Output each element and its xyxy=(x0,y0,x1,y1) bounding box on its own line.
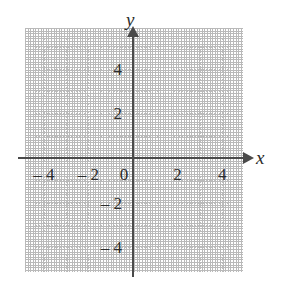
grid-line-horizontal xyxy=(25,91,243,92)
grid-line-vertical xyxy=(155,28,156,272)
grid-line-horizontal xyxy=(25,225,243,226)
y-axis-line xyxy=(132,33,134,277)
y-tick-label: 2 xyxy=(0,105,122,122)
grid-line-vertical xyxy=(200,28,201,272)
x-axis-line xyxy=(18,157,251,159)
grid-line-vertical xyxy=(222,28,223,272)
grid-line-horizontal xyxy=(25,270,243,271)
x-axis-arrowhead-icon xyxy=(243,152,254,164)
y-tick-label: – 4 xyxy=(0,239,122,256)
x-tick-label: 4 xyxy=(218,166,227,183)
grid-line-horizontal xyxy=(25,47,243,48)
coordinate-plane-figure: x y – 4– 202442– 2– 4 xyxy=(0,0,281,286)
y-axis-label: y xyxy=(126,10,134,29)
x-tick-label: 0 xyxy=(120,166,129,183)
y-tick-label: – 2 xyxy=(0,194,122,211)
grid-line-vertical xyxy=(178,28,179,272)
grid-line-horizontal xyxy=(25,136,243,137)
grid-line-horizontal xyxy=(25,180,243,181)
x-axis-label: x xyxy=(256,148,264,167)
y-tick-label: 4 xyxy=(0,60,122,77)
x-tick-label: – 4 xyxy=(33,166,54,183)
x-tick-label: 2 xyxy=(173,166,182,183)
x-tick-label: – 2 xyxy=(78,166,99,183)
